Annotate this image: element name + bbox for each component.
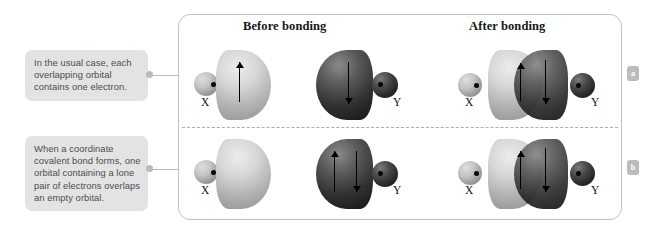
atom-y-nucleus-dot (576, 83, 581, 88)
atom-y-label: Y (393, 184, 401, 196)
electron-arrow-up (516, 151, 525, 189)
atom-y-sphere (570, 161, 595, 186)
atom-y-label: Y (393, 96, 401, 108)
header-after-bonding: After bonding (469, 19, 545, 34)
row-tab-b: b (627, 160, 639, 175)
row-tab-a: a (627, 66, 639, 81)
atom-x-label: X (201, 96, 209, 108)
electron-arrow-down (541, 60, 550, 104)
callout-a-line-2: overlapping orbital (34, 69, 139, 81)
electron-arrow-down (352, 151, 361, 192)
callout-b-connector-line (152, 169, 179, 170)
atom-x-label: X (465, 96, 473, 108)
row-divider (182, 127, 618, 128)
atom-x-label: X (201, 184, 209, 196)
atom-x-nucleus-dot (211, 170, 216, 175)
orbital-y-lobe-lone-pair (316, 139, 373, 209)
atom-y-nucleus-dot (378, 82, 383, 87)
electron-arrow-up (516, 63, 525, 101)
electron-arrow-up (235, 62, 244, 102)
header-before-bonding: Before bonding (243, 19, 326, 34)
atom-x-nucleus-dot (474, 83, 479, 88)
callout-a-line-3: contains one electron. (34, 81, 139, 93)
electron-arrow-down (541, 148, 550, 192)
callout-b-line-3: orbital containing a lone (34, 167, 139, 179)
callout-b: When a coordinate covalent bond forms, o… (25, 136, 148, 211)
atom-x-nucleus-dot (211, 82, 216, 87)
callout-b-line-1: When a coordinate (34, 143, 139, 155)
atom-x-label: X (465, 184, 473, 196)
callout-b-line-4: pair of electrons overlaps (34, 180, 139, 192)
atom-y-sphere (570, 73, 595, 98)
atom-y-nucleus-dot (378, 171, 383, 176)
atom-y-label: Y (591, 184, 599, 196)
callout-b-line-5: an empty orbital. (34, 192, 139, 204)
callout-a-line-1: In the usual case, each (34, 57, 139, 69)
callout-a-connector-line (152, 75, 179, 76)
atom-y-nucleus-dot (576, 171, 581, 176)
atom-x-nucleus-dot (474, 171, 479, 176)
callout-a: In the usual case, each overlapping orbi… (25, 50, 148, 101)
electron-arrow-up (330, 151, 339, 192)
electron-arrow-down (344, 62, 353, 104)
callout-b-line-2: covalent bond forms, one (34, 155, 139, 167)
atom-y-sphere (372, 72, 398, 98)
figure-canvas: Before bonding After bonding In the usua… (0, 0, 651, 234)
atom-y-label: Y (591, 96, 599, 108)
